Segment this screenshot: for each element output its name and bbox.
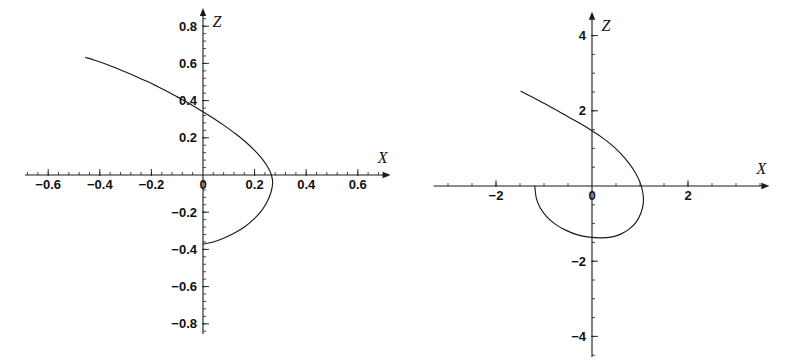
left-tick-label-group: −0.6−0.4−0.200.20.40.6−0.8−0.6−0.4−0.20.… <box>35 13 388 331</box>
y-axis-name: Z <box>213 13 223 30</box>
x-tick-label: −0.6 <box>35 177 61 192</box>
y-tick-label: −0.2 <box>171 205 197 220</box>
x-tick-label: −0.2 <box>139 177 165 192</box>
y-tick-label: 0.2 <box>179 130 197 145</box>
right-axes-group <box>434 12 770 357</box>
chart-panel-left: −0.6−0.4−0.200.20.40.6−0.8−0.6−0.4−0.20.… <box>0 0 394 363</box>
y-axis-name: Z <box>602 17 612 34</box>
x-tick-label: 0.6 <box>349 177 367 192</box>
y-tick-label: −0.4 <box>171 242 197 257</box>
x-tick-label: −2 <box>489 188 504 203</box>
x-tick-label: 0 <box>588 188 595 203</box>
y-tick-label: −2 <box>571 254 586 269</box>
chart-panel-right: −202−4−224XZ <box>394 0 788 363</box>
y-tick-label: 2 <box>579 103 586 118</box>
right-tick-label-group: −202−4−224XZ <box>489 17 768 344</box>
x-tick-label: 0 <box>199 177 206 192</box>
right-plot-svg: −202−4−224XZ <box>394 0 788 363</box>
left-axes-group <box>25 8 391 334</box>
x-tick-label: 2 <box>684 188 691 203</box>
x-tick-label: 0.4 <box>297 177 316 192</box>
y-tick-label: 0.8 <box>179 19 197 34</box>
x-tick-label: −0.4 <box>87 177 113 192</box>
figure-container: −0.6−0.4−0.200.20.40.6−0.8−0.6−0.4−0.20.… <box>0 0 788 363</box>
x-tick-label: 0.2 <box>246 177 264 192</box>
y-tick-label: 0.6 <box>179 56 197 71</box>
y-tick-label: −0.8 <box>171 316 197 331</box>
x-axis-name: X <box>377 149 389 166</box>
y-tick-label: 4 <box>579 28 587 43</box>
x-axis-name: X <box>756 160 768 177</box>
y-tick-label: 0.4 <box>179 93 198 108</box>
left-plot-svg: −0.6−0.4−0.200.20.40.6−0.8−0.6−0.4−0.20.… <box>0 0 394 363</box>
y-tick-label: −4 <box>571 329 587 344</box>
y-tick-label: −0.6 <box>171 279 197 294</box>
